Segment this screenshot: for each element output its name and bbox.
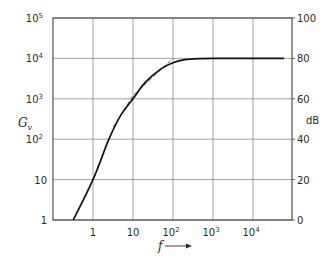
x-axis-ticks: 110102103104 (90, 226, 260, 238)
x-tick-label: 10 (127, 227, 140, 238)
y-left-tick-label: 103 (26, 93, 43, 105)
y-right-tick-label: 20 (297, 175, 310, 186)
y-left-tick-label: 104 (26, 52, 44, 64)
arrowhead-icon (186, 244, 192, 249)
x-axis-label-text: f (157, 239, 165, 253)
y-axis-left-label: Gv (18, 116, 33, 132)
y-right-tick-label: 60 (297, 94, 310, 105)
x-axis-label: f (157, 239, 192, 253)
y-right-tick-label: 80 (297, 53, 310, 64)
y-axis-left-ticks: 110102103104105 (26, 12, 47, 226)
y-left-tick-label: 105 (26, 12, 43, 24)
y-right-tick-label: 40 (297, 134, 310, 145)
x-tick-label: 1 (90, 227, 96, 238)
y-axis-right-label: dB (306, 115, 319, 126)
y-right-tick-label: 0 (297, 215, 303, 226)
x-tick-label: 102 (162, 226, 179, 238)
asymptote-dashed-line (113, 58, 173, 127)
x-tick-label: 104 (242, 226, 260, 238)
y-left-tick-label: 1 (41, 215, 47, 226)
bode-magnitude-chart: 110102103104 110102103104105 02040608010… (0, 0, 332, 261)
x-tick-label: 103 (202, 226, 219, 238)
y-left-tick-label: 10 (34, 175, 47, 186)
y-left-tick-label: 102 (26, 133, 43, 145)
y-right-tick-label: 100 (297, 13, 316, 24)
